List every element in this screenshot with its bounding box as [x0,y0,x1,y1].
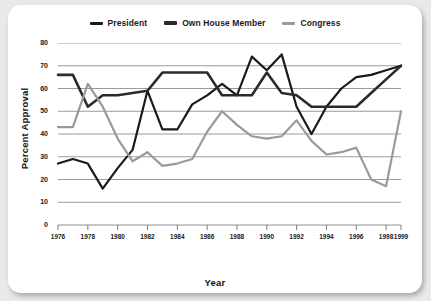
y-tick-label: 30 [26,153,48,160]
series-lines [58,54,401,188]
y-tick-label: 80 [26,39,48,46]
x-axis-title: Year [8,277,422,288]
y-tick-label: 20 [26,176,48,183]
y-tick-label: 70 [26,62,48,69]
chart-legend: President Own House Member Congress [8,18,422,28]
y-tick-label: 0 [26,221,48,228]
y-tick-label: 50 [26,107,48,114]
y-tick-label: 10 [26,198,48,205]
series-line-own-house-member [58,66,401,107]
legend-swatch-president [90,22,103,25]
x-tick-label: 1999 [384,233,418,240]
legend-label-president: President [108,18,148,28]
y-tick-label: 40 [26,130,48,137]
chart-svg [53,43,403,248]
legend-swatch-own-house-member [164,21,177,25]
gridlines [58,43,401,225]
legend-label-own-house-member: Own House Member [182,18,265,28]
legend-label-congress: Congress [300,18,340,28]
legend-swatch-congress [282,22,295,25]
plot-area: 0102030405060708019761978198019821984198… [53,43,403,248]
series-line-congress [58,84,401,186]
legend-item-own-house-member: Own House Member [164,18,265,28]
y-tick-label: 60 [26,85,48,92]
legend-item-president: President [90,18,148,28]
x-axis-ticks [58,225,401,230]
legend-item-congress: Congress [282,18,340,28]
chart-card: President Own House Member Congress Perc… [8,5,422,293]
